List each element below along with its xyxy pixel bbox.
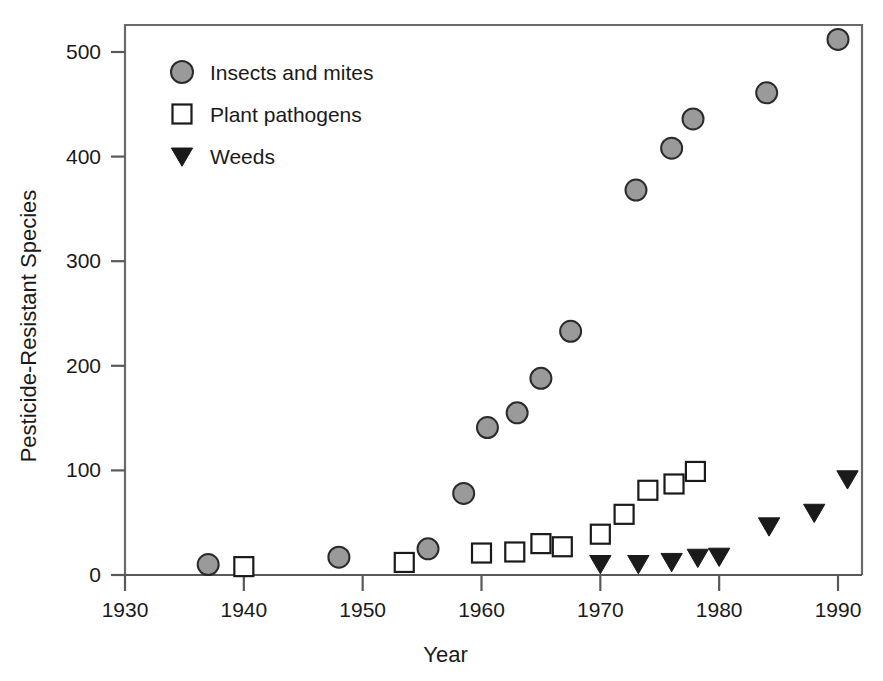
legend-entry[interactable]: Plant pathogens [173,103,362,126]
x-tick-label: 1960 [458,598,505,621]
data-point-square-marker [615,505,634,524]
legend-entry[interactable]: Insects and mites [171,61,373,84]
y-tick-label: 0 [89,563,101,586]
legend-label: Insects and mites [210,61,373,84]
data-point-square-marker [505,542,524,561]
y-tick-label: 200 [66,354,101,377]
data-point-square-marker [665,474,684,493]
data-point-circle-marker [198,554,219,575]
x-axis-title: Year [423,642,467,667]
x-tick-label: 1980 [696,598,743,621]
data-point-circle-marker [477,417,498,438]
chart-legend: Insects and mitesPlant pathogensWeeds [171,61,373,168]
x-tick-label: 1930 [102,598,149,621]
y-tick-label: 400 [66,145,101,168]
data-point-triangle-marker [758,518,779,536]
data-point-circle-marker [661,138,682,159]
data-point-circle-marker [560,321,581,342]
data-point-triangle-marker [709,548,730,566]
data-point-triangle-marker [804,504,825,522]
y-tick-label: 500 [66,40,101,63]
data-point-circle-marker [756,82,777,103]
legend-square-marker [173,105,192,124]
data-point-circle-marker [530,368,551,389]
legend-label: Weeds [210,145,275,168]
x-tick-label: 1950 [339,598,386,621]
legend-circle-marker [171,61,193,83]
data-point-square-marker [553,537,572,556]
data-point-square-marker [395,553,414,572]
x-tick-label: 1970 [577,598,624,621]
y-tick-label: 100 [66,458,101,481]
legend-label: Plant pathogens [210,103,362,126]
data-point-square-marker [234,557,253,576]
scatter-plot: 0100200300400500193019401950196019701980… [0,0,883,681]
data-point-circle-marker [507,402,528,423]
y-axis-title: Pesticide-Resistant Species [16,190,41,463]
data-point-triangle-marker [837,471,858,489]
legend-entry[interactable]: Weeds [171,145,275,168]
data-point-square-marker [686,462,705,481]
data-point-square-marker [638,481,657,500]
data-point-circle-marker [625,180,646,201]
data-point-square-marker [472,544,491,563]
x-tick-label: 1990 [815,598,862,621]
data-point-triangle-marker [687,549,708,567]
data-point-circle-marker [453,483,474,504]
data-point-circle-marker [828,29,849,50]
data-point-circle-marker [328,547,349,568]
data-point-circle-marker [418,538,439,559]
legend-triangle-marker [171,148,192,166]
chart-figure: 0100200300400500193019401950196019701980… [0,0,883,681]
data-point-triangle-marker [661,553,682,571]
axis-tick-labels: 0100200300400500193019401950196019701980… [66,40,861,621]
data-point-triangle-marker [628,556,649,574]
x-tick-label: 1940 [220,598,267,621]
data-point-triangle-marker [590,556,611,574]
y-tick-label: 300 [66,249,101,272]
data-point-square-marker [531,534,550,553]
axis-ticks [111,52,838,591]
data-point-square-marker [591,525,610,544]
data-point-circle-marker [683,108,704,129]
